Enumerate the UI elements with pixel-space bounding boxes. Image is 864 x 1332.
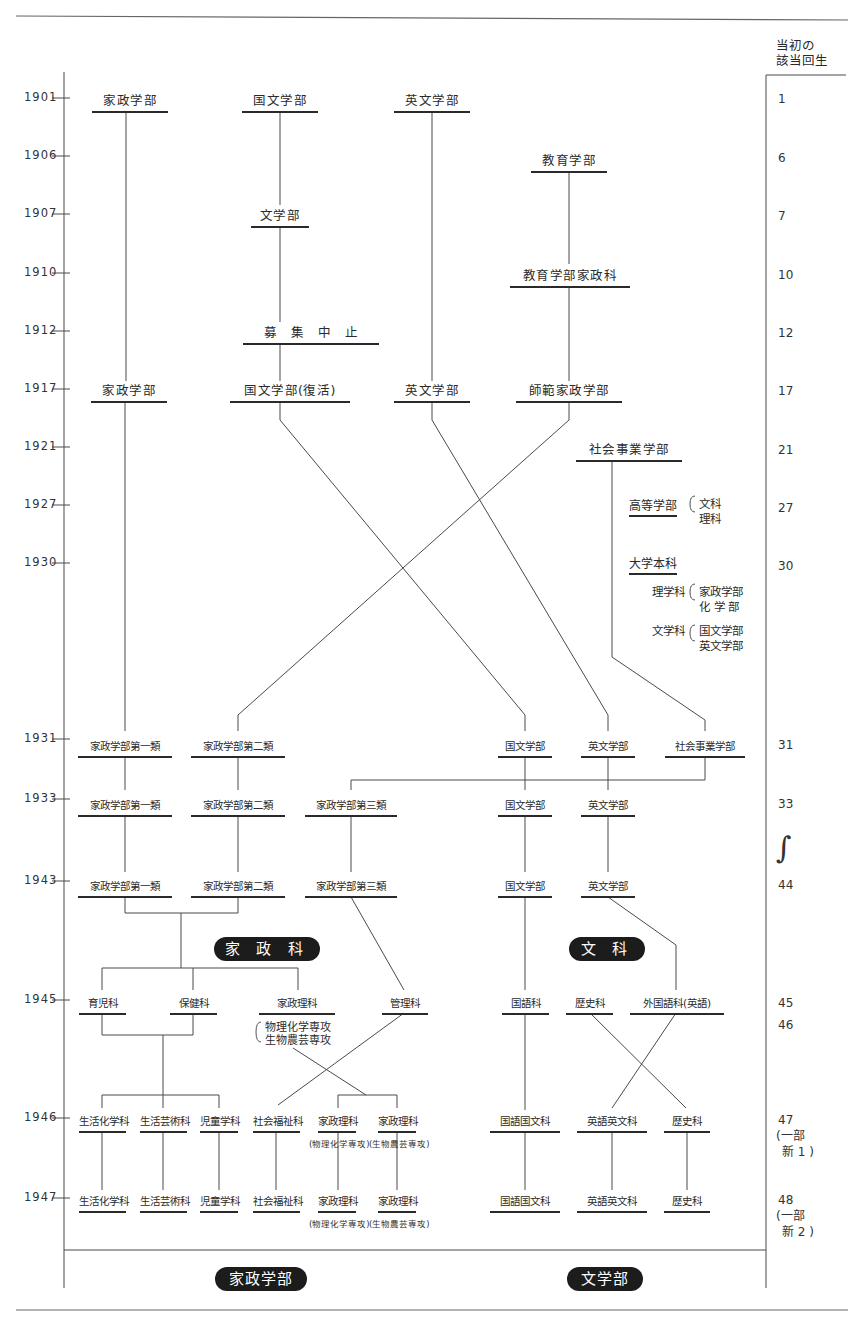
- year-label: 1943: [24, 873, 57, 887]
- note-item: 文科: [699, 497, 721, 512]
- dept-label: 国文学部(復活): [244, 383, 336, 398]
- period-gap-mark: ∫: [776, 826, 792, 870]
- year-label: 1907: [24, 206, 57, 220]
- note-koto-gakubu: 高等学部: [629, 499, 677, 514]
- dept-node: 英文学部: [581, 738, 635, 758]
- note-bungakka: 文学科: [652, 624, 685, 639]
- dept-node: 家政学部第一類: [78, 797, 172, 817]
- cohort-number: 7: [778, 208, 786, 224]
- dept-label: 生活芸術科: [140, 1115, 190, 1127]
- dept-label: 英語英文科: [587, 1195, 637, 1207]
- note-item: 国文学部: [699, 624, 743, 639]
- note-label: 高等学部: [629, 499, 677, 517]
- dept-node: 社会福祉科: [253, 1193, 300, 1213]
- dept-label: 歴史科: [672, 1115, 702, 1127]
- badge-bungakubu: 文学部: [567, 1267, 643, 1291]
- year-label: 1901: [24, 90, 57, 104]
- dept-node: 教育学部家政科: [510, 268, 630, 288]
- dept-node: 家政学部第二類: [191, 797, 285, 817]
- cohort-title-line2: 該当回生: [776, 53, 828, 68]
- dept-node: 社会事業学部: [665, 738, 745, 758]
- dept-node: 家政理科: [378, 1113, 416, 1133]
- dept-node: 管理科: [382, 995, 428, 1015]
- badge-bunka: 文 科: [569, 937, 645, 961]
- dept-node: 英文学部: [394, 383, 470, 403]
- cohort-number: 47: [778, 1112, 793, 1128]
- note-item: 化 学 部: [699, 600, 743, 615]
- dept-node: 生活化学科: [79, 1193, 126, 1213]
- badge-kaseika: 家 政 科: [214, 937, 320, 961]
- dept-node: 家政学部第一類: [78, 738, 172, 758]
- year-label: 1912: [24, 323, 57, 337]
- cohort-number: 21: [778, 442, 793, 458]
- dept-label: 英文学部: [588, 740, 628, 752]
- dept-node: 家政学部: [92, 93, 168, 113]
- major-label: (物理化学専攻): [309, 1217, 370, 1229]
- dept-label: 歴史科: [672, 1195, 702, 1207]
- dept-label: 社会事業学部: [589, 442, 670, 457]
- dept-node: 英文学部: [581, 797, 635, 817]
- dept-label: 児童学科: [200, 1115, 240, 1127]
- note-label: 大学本科: [629, 557, 677, 575]
- dept-node: 家政学部第二類: [191, 878, 285, 898]
- dept-node: 家政学部: [91, 383, 167, 403]
- dept-node: 国文学部: [498, 878, 552, 898]
- dept-label: 英文学部: [588, 880, 628, 892]
- cohort-number: 33: [778, 796, 793, 812]
- dept-node: 児童学科: [200, 1193, 238, 1213]
- dept-label: 家政学部第三類: [316, 799, 386, 811]
- dept-node: 英語英文科: [577, 1113, 647, 1133]
- kaseiri-majors: 物理化学専攻 生物農芸専攻: [265, 1021, 331, 1047]
- dept-label: 英文学部: [405, 383, 459, 398]
- year-label: 1921: [24, 439, 57, 453]
- dept-node: 国語国文科: [490, 1193, 560, 1213]
- cohort-number: 17: [778, 383, 793, 399]
- dept-label: 家政学部第二類: [203, 880, 273, 892]
- major-label: 物理化学専攻: [265, 1021, 331, 1034]
- dept-label: 歴史科: [575, 997, 605, 1009]
- dept-node: 国語国文科: [490, 1113, 560, 1133]
- dept-label: 国文学部: [505, 740, 545, 752]
- cohort-number: 6: [778, 150, 786, 166]
- cohort-title-line1: 当初の: [776, 38, 828, 53]
- cohort-number: 10: [778, 267, 793, 283]
- university-department-lineage-diagram: 当初の 該当回生 1901 1906 1907 1910 1912 1917 1…: [0, 0, 864, 1332]
- dept-node: 英文学部: [581, 878, 635, 898]
- dept-label: 家政理科: [277, 997, 317, 1009]
- dept-node: 育児科: [79, 995, 126, 1015]
- dept-node: 家政学部第二類: [191, 738, 285, 758]
- dept-node: 家政学部第三類: [305, 878, 397, 898]
- recruitment-suspended-node: 募 集 中 止: [243, 325, 379, 345]
- major-label: (物理化学専攻): [309, 1137, 370, 1149]
- cohort-number: 1: [778, 91, 786, 107]
- dept-label: 家政学部第一類: [90, 799, 160, 811]
- year-label: 1917: [24, 381, 57, 395]
- dept-label: 国語国文科: [500, 1115, 550, 1127]
- dept-node: 教育学部: [531, 153, 607, 173]
- year-label: 1927: [24, 497, 57, 511]
- dept-label: 教育学部家政科: [523, 268, 618, 283]
- dept-node: 生活芸術科: [140, 1113, 187, 1133]
- dept-label: 家政理科: [378, 1195, 418, 1207]
- year-label: 1906: [24, 148, 57, 162]
- dept-node: 家政学部第三類: [305, 797, 397, 817]
- cohort-note: 新 1 ): [782, 1144, 814, 1160]
- dept-label: 保健科: [179, 997, 209, 1009]
- cohort-note: (一部: [776, 1208, 805, 1224]
- dept-label: 外国語科(英語): [643, 997, 711, 1009]
- dept-node: 英語英文科: [577, 1193, 647, 1213]
- dept-label: 国語国文科: [500, 1195, 550, 1207]
- connector-lines: [0, 0, 864, 1332]
- dept-label: 社会福祉科: [253, 1115, 303, 1127]
- dept-node: 社会事業学部: [576, 442, 682, 462]
- cohort-column-title: 当初の 該当回生: [776, 38, 828, 68]
- year-label: 1947: [24, 1190, 57, 1204]
- year-label: 1910: [24, 265, 57, 279]
- dept-label: 教育学部: [542, 153, 596, 168]
- dept-node: 保健科: [170, 995, 217, 1015]
- note-koto-sub: 文科 理科: [699, 497, 721, 527]
- note-daigaku-honka: 大学本科: [629, 557, 677, 572]
- note-item: 英文学部: [699, 639, 743, 654]
- dept-node: 国文学部: [498, 738, 552, 758]
- dept-label: 生活芸術科: [140, 1195, 190, 1207]
